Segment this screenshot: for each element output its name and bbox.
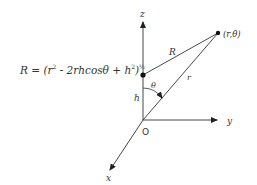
R-label: R <box>168 47 176 57</box>
origin-label: O <box>142 127 149 137</box>
r-line <box>143 33 218 120</box>
y-label: y <box>226 116 233 126</box>
field-point <box>216 31 220 35</box>
r-label: r <box>187 73 192 82</box>
theta-label: θ <box>151 81 156 90</box>
x-label: x <box>106 173 111 183</box>
charge-point <box>140 72 145 77</box>
x-axis <box>110 120 143 170</box>
z-label: z <box>139 9 145 19</box>
R-line <box>143 33 218 75</box>
h-label: h <box>134 93 140 103</box>
point-label: (r,θ) <box>223 29 241 39</box>
coordinate-diagram: z y x O (r,θ) R r h θ <box>0 0 257 185</box>
